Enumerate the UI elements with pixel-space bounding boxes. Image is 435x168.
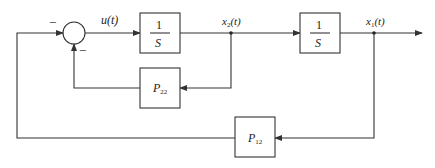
integrator-1-denominator: S: [155, 36, 161, 50]
signal-label-u: u(t): [101, 13, 118, 27]
block-diagram: − − u(t) 1 S 1 S x2(t) x1(t) P22 P12: [0, 0, 435, 168]
sum-sign-minus-bottom: −: [79, 43, 86, 58]
integrator-2-numerator: 1: [316, 18, 322, 32]
feedback-x2-line: [180, 33, 231, 88]
integrator-2-denominator: S: [315, 36, 321, 50]
signal-label-x1: x1(t): [365, 15, 385, 29]
signal-label-x2: x2(t): [221, 15, 241, 29]
sum-sign-minus-left: −: [49, 15, 56, 30]
feedback-p12-to-sum-line: [17, 33, 235, 138]
summing-junction: [63, 22, 85, 44]
integrator-1-numerator: 1: [156, 18, 162, 32]
